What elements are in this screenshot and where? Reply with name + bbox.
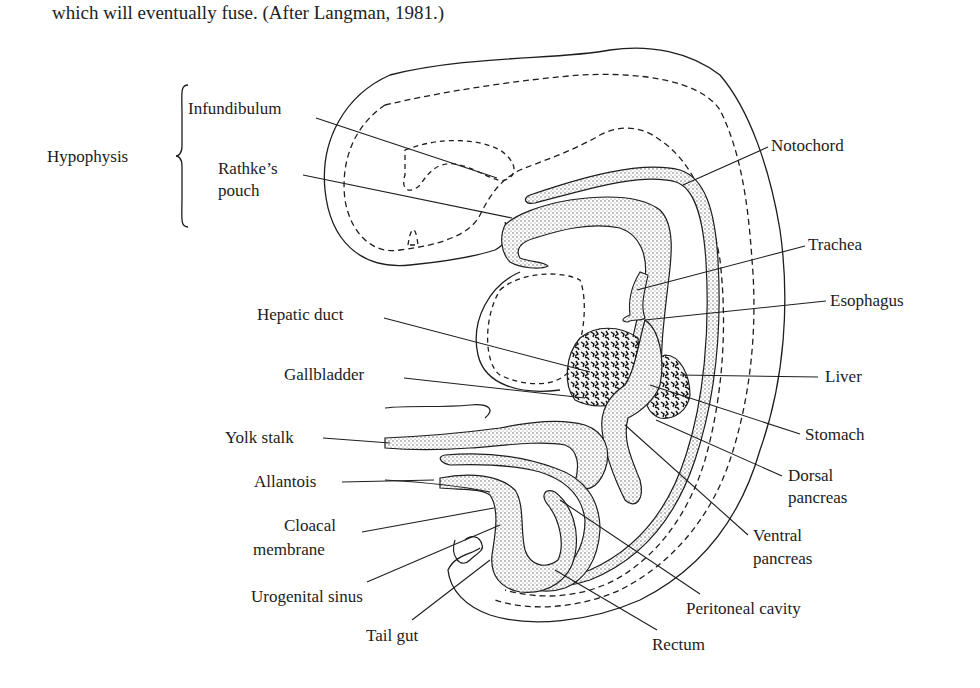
label-rectum: Rectum [652, 634, 705, 655]
label-ventral-pancreas-1: Ventral [753, 525, 802, 546]
label-hepatic-duct: Hepatic duct [257, 304, 343, 325]
label-gallbladder: Gallbladder [284, 364, 364, 385]
label-hypophysis: Hypophysis [47, 146, 128, 167]
label-liver: Liver [825, 366, 862, 387]
label-tail-gut: Tail gut [366, 625, 418, 646]
label-infundibulum: Infundibulum [188, 98, 282, 119]
label-stomach: Stomach [805, 424, 865, 445]
label-dorsal-pancreas-2: pancreas [788, 487, 847, 508]
label-cloacal-membrane-1: Cloacal [284, 515, 336, 536]
label-esophagus: Esophagus [830, 290, 904, 311]
label-notochord: Notochord [771, 135, 844, 156]
label-cloacal-membrane-2: membrane [253, 539, 325, 560]
label-yolk-stalk: Yolk stalk [225, 427, 294, 448]
label-peritoneal-cavity: Peritoneal cavity [686, 598, 801, 619]
label-ventral-pancreas-2: pancreas [753, 548, 812, 569]
label-trachea: Trachea [808, 234, 862, 255]
label-rathkes-pouch-1: Rathke’s [218, 158, 278, 179]
label-urogenital-sinus: Urogenital sinus [251, 586, 363, 607]
leader-lines [0, 0, 980, 688]
label-rathkes-pouch-2: pouch [218, 180, 260, 201]
label-allantois: Allantois [254, 471, 316, 492]
label-dorsal-pancreas-1: Dorsal [788, 465, 833, 486]
